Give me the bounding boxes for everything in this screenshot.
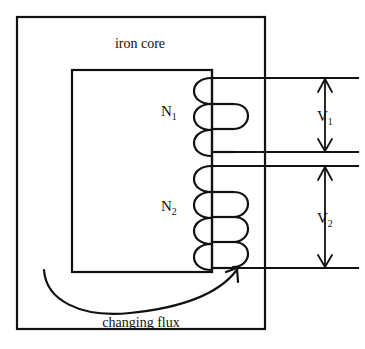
primary-winding — [194, 78, 248, 156]
secondary-loop-right-3 — [233, 242, 248, 267]
transformer-diagram-figure: iron core N1 N2 V1 V2 changing flux — [0, 0, 365, 349]
primary-turns-letter: N — [161, 103, 172, 119]
primary-voltage-subscript: 1 — [328, 116, 333, 127]
secondary-winding — [194, 166, 248, 270]
changing-flux-arrow-shaft — [44, 270, 236, 314]
primary-turns-subscript: 1 — [172, 111, 177, 122]
primary-loop-left-1 — [194, 78, 212, 104]
secondary-turns-label: N2 — [161, 198, 177, 217]
primary-voltage-letter: V — [317, 108, 328, 124]
outer-core-rect — [17, 17, 265, 329]
inner-core-window-rect — [72, 70, 212, 272]
secondary-loop-left-1 — [194, 166, 212, 192]
primary-loop-right-1 — [233, 104, 248, 129]
secondary-voltage-letter: V — [317, 210, 328, 226]
secondary-loop-left-3 — [194, 218, 212, 244]
iron-core-label: iron core — [115, 36, 165, 51]
secondary-loop-left-4 — [194, 244, 212, 270]
secondary-turns-letter: N — [161, 198, 172, 214]
primary-loop-left-2 — [194, 104, 212, 130]
secondary-loop-right-2 — [233, 217, 248, 242]
secondary-turns-subscript: 2 — [172, 206, 177, 217]
secondary-voltage-subscript: 2 — [328, 218, 333, 229]
secondary-loop-right-1 — [233, 192, 248, 217]
transformer-diagram-canvas: iron core N1 N2 V1 V2 changing flux — [0, 0, 365, 349]
primary-loop-left-3 — [194, 130, 212, 156]
changing-flux-label: changing flux — [102, 315, 179, 330]
secondary-loop-left-2 — [194, 192, 212, 218]
primary-turns-label: N1 — [161, 103, 177, 122]
changing-flux-arrow — [44, 268, 238, 314]
